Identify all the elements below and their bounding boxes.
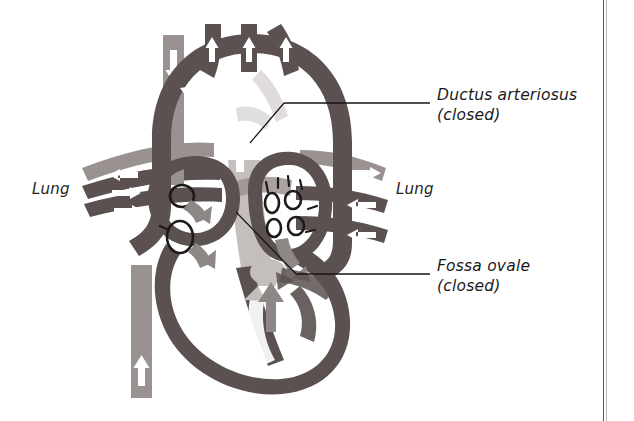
organ-label-lung-left: Lung — [32, 180, 70, 198]
figure-canvas: .ox { fill:#5a5150; } .deox { fill:#9a92… — [0, 0, 634, 421]
annotation-fossa-ovale: Fossa ovale (closed) — [437, 256, 530, 296]
annotation-ductus-name: Ductus arteriosus — [437, 85, 577, 105]
inferior-vena-cava — [131, 265, 152, 398]
annotation-fossa-name: Fossa ovale — [437, 256, 530, 276]
figure-border-right-outer — [606, 0, 607, 421]
annotation-ductus-arteriosus: Ductus arteriosus (closed) — [437, 85, 577, 125]
annotation-fossa-state: (closed) — [437, 276, 530, 296]
figure-border-right — [603, 0, 604, 421]
heart-diagram: .ox { fill:#5a5150; } .deox { fill:#9a92… — [0, 0, 634, 421]
organ-label-lung-right: Lung — [396, 180, 434, 198]
annotation-ductus-state: (closed) — [437, 105, 577, 125]
